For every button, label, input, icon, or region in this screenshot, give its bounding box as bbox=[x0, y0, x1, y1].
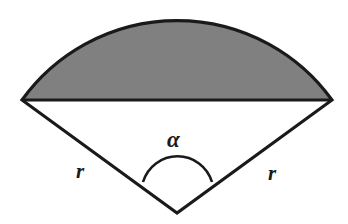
geometry-figure: α r r bbox=[0, 0, 348, 224]
radius-label-left: r bbox=[76, 161, 84, 182]
sector-diagram-svg bbox=[0, 0, 348, 224]
radius-label-right: r bbox=[268, 163, 276, 184]
circular-segment-shaded-region bbox=[22, 21, 332, 100]
angle-label-alpha: α bbox=[167, 128, 180, 151]
